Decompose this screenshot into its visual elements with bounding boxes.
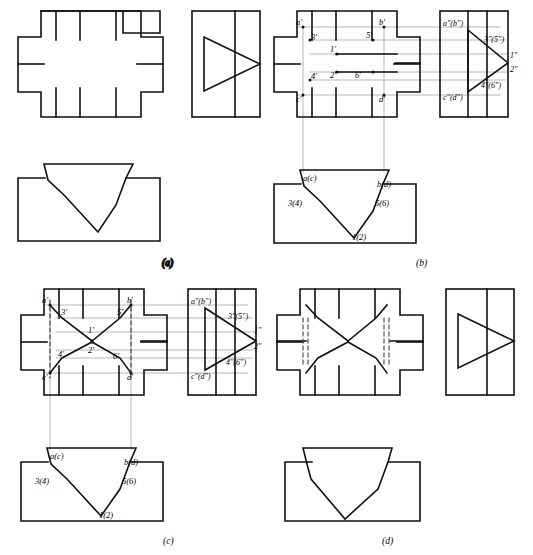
label-2-prime: 2' bbox=[88, 345, 94, 355]
sheet-background bbox=[0, 0, 533, 555]
dot-2 bbox=[91, 341, 94, 344]
label-c-d-dbl: c"(d") bbox=[191, 372, 211, 381]
label-2-prime: 2' bbox=[330, 70, 336, 80]
caption-c: (c) bbox=[163, 536, 174, 547]
label-a-c: a(c) bbox=[303, 173, 317, 183]
label-4-6-dbl: 4"(6") bbox=[226, 358, 246, 367]
label-1-2: 1(2) bbox=[352, 232, 366, 242]
label-c-prime: c' bbox=[296, 94, 302, 104]
label-a-b-dbl: a"(b") bbox=[443, 19, 463, 28]
label-1-2: 1(2) bbox=[99, 510, 113, 520]
dot-c bbox=[49, 372, 52, 375]
label-1-dbl: 1" bbox=[510, 51, 518, 60]
label-a-b-dbl: a"(b") bbox=[191, 297, 211, 306]
label-a-prime: a' bbox=[296, 17, 302, 27]
label-5-prime: 5' bbox=[366, 30, 372, 40]
caption-b: (b) bbox=[416, 258, 427, 269]
dot-a bbox=[49, 304, 52, 307]
label-1-prime: 1' bbox=[88, 325, 94, 335]
label-5-6: 5(6) bbox=[122, 476, 136, 486]
label-4-prime: 4' bbox=[311, 71, 317, 81]
label-5-prime: 5' bbox=[117, 307, 123, 317]
label-3-4: 3(4) bbox=[34, 476, 49, 486]
label-b-prime: b' bbox=[127, 295, 133, 305]
dot-c bbox=[302, 94, 305, 97]
label-a-prime: a' bbox=[42, 295, 48, 305]
label-2-dbl: 2" bbox=[254, 342, 262, 351]
label-d-prime: d' bbox=[379, 94, 385, 104]
label-4-prime: 4' bbox=[58, 349, 64, 359]
label-6-prime: 6' bbox=[113, 351, 119, 361]
label-d-prime: d' bbox=[127, 372, 133, 382]
label-c-prime: c' bbox=[42, 372, 48, 382]
caption-d: (d) bbox=[382, 536, 393, 547]
label-3-prime: 3' bbox=[60, 307, 67, 317]
label-6-prime: 6' bbox=[355, 70, 361, 80]
label-b-d: b(d) bbox=[377, 179, 391, 189]
label-3-4: 3(4) bbox=[287, 198, 302, 208]
label-3-prime: 3' bbox=[310, 32, 317, 42]
label-c-d-dbl: c"(d") bbox=[443, 93, 463, 102]
technical-drawing-canvas: (a) bbox=[0, 0, 533, 555]
label-3-5-dbl: 3"(5") bbox=[227, 312, 248, 321]
label-1-prime: 1' bbox=[330, 44, 336, 54]
label-3-5-dbl: 3"(5") bbox=[483, 35, 504, 44]
drawing-sheet: (a) bbox=[0, 0, 533, 555]
label-1-dbl: 1" bbox=[254, 326, 262, 335]
label-2-dbl: 2" bbox=[510, 65, 518, 74]
label-b-prime: b' bbox=[379, 17, 385, 27]
label-a-c: a(c) bbox=[50, 451, 64, 461]
label-5-6: 5(6) bbox=[375, 198, 389, 208]
label-4-6-dbl: 4"(6") bbox=[481, 81, 501, 90]
dot-6 bbox=[372, 71, 375, 74]
label-b-d: b(d) bbox=[124, 457, 138, 467]
caption-a: (a) bbox=[162, 258, 173, 269]
